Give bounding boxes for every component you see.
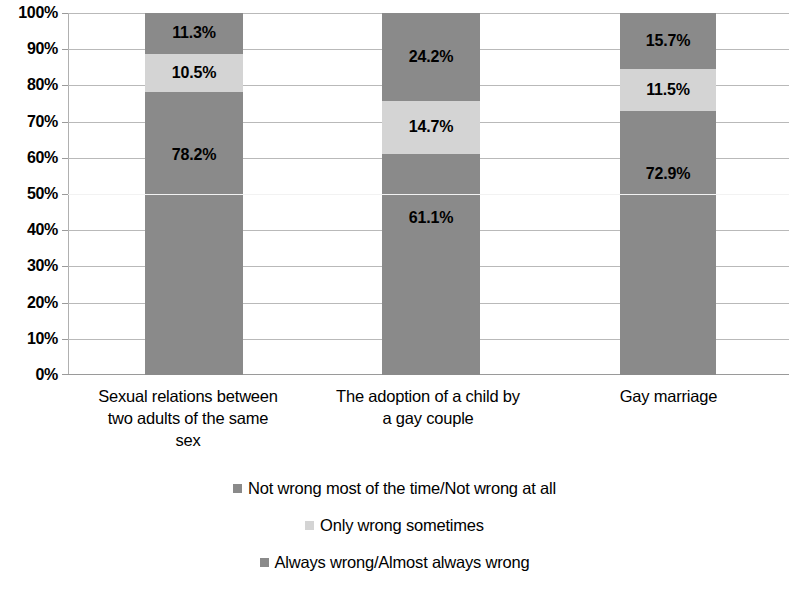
y-tick-70: 70% [0, 114, 58, 130]
category-label-gay-marriage: Gay marriage [548, 386, 789, 408]
category-line-3: sex [68, 430, 308, 452]
category-line-2: two adults of the same [68, 408, 308, 430]
category-line-1: Gay marriage [548, 386, 789, 408]
segment-label-only-wrong-sometimes: 11.5% [646, 82, 690, 98]
segment-only-wrong-sometimes[interactable]: 11.5% [620, 69, 716, 111]
y-tick-20: 20% [0, 295, 58, 311]
segment-label-always-wrong: 78.2% [172, 147, 216, 163]
segment-label-not-wrong: 24.2% [409, 49, 453, 65]
segment-not-wrong[interactable]: 15.7% [620, 13, 716, 70]
legend-label-always-wrong: Always wrong/Almost always wrong [275, 554, 530, 571]
legend-item-always-wrong[interactable]: Always wrong/Almost always wrong [0, 554, 789, 571]
segment-always-wrong[interactable]: 72.9% [620, 111, 716, 375]
segment-label-not-wrong: 11.3% [172, 25, 216, 41]
category-line-1: Sexual relations between [68, 386, 308, 408]
category-label-sexual-relations: Sexual relations between two adults of t… [68, 386, 308, 451]
segment-only-wrong-sometimes[interactable]: 10.5% [145, 54, 243, 92]
y-tick-10: 10% [0, 331, 58, 347]
segment-label-not-wrong: 15.7% [646, 33, 690, 49]
segment-label-only-wrong-sometimes: 14.7% [409, 119, 453, 135]
y-tick-40: 40% [0, 222, 58, 238]
segment-not-wrong[interactable]: 11.3% [145, 13, 243, 54]
y-tick-80: 80% [0, 77, 58, 93]
y-tick-30: 30% [0, 258, 58, 274]
legend-swatch-icon-not-wrong [233, 484, 242, 493]
y-tick-100: 100% [0, 5, 58, 21]
legend-swatch-icon-only-wrong-sometimes [305, 521, 314, 530]
y-tick-90: 90% [0, 41, 58, 57]
segment-not-wrong[interactable]: 24.2% [382, 13, 480, 101]
segment-always-wrong[interactable]: 78.2% [145, 92, 243, 375]
category-line-1: The adoption of a child by [308, 386, 548, 408]
segment-only-wrong-sometimes[interactable]: 14.7% [382, 101, 480, 154]
y-tick-60: 60% [0, 150, 58, 166]
bars-layer: 11.3% 10.5% 78.2% 24.2% [68, 13, 789, 375]
category-line-2: a gay couple [308, 408, 548, 430]
segment-label-always-wrong: 61.1% [409, 210, 453, 226]
plot-area: 100% 90% 80% 70% 60% 50% 40% 30% 20% 10%… [0, 0, 789, 380]
segment-always-wrong[interactable]: 61.1% [382, 154, 480, 375]
category-labels: Sexual relations between two adults of t… [68, 386, 789, 468]
gridline-50-overlay [68, 194, 789, 195]
y-tick-50: 50% [0, 186, 58, 202]
category-label-adoption: The adoption of a child by a gay couple [308, 386, 548, 430]
legend-swatch-icon-always-wrong [260, 558, 269, 567]
legend-label-not-wrong: Not wrong most of the time/Not wrong at … [248, 480, 556, 497]
stacked-bar-chart: 100% 90% 80% 70% 60% 50% 40% 30% 20% 10%… [0, 0, 789, 595]
y-axis-labels: 100% 90% 80% 70% 60% 50% 40% 30% 20% 10%… [0, 13, 58, 375]
legend-item-not-wrong[interactable]: Not wrong most of the time/Not wrong at … [0, 480, 789, 497]
segment-label-only-wrong-sometimes: 10.5% [172, 65, 216, 81]
legend-item-only-wrong-sometimes[interactable]: Only wrong sometimes [0, 517, 789, 534]
segment-label-always-wrong: 72.9% [646, 166, 690, 182]
y-tick-0: 0% [0, 367, 58, 383]
legend-label-only-wrong-sometimes: Only wrong sometimes [320, 517, 484, 534]
legend: Not wrong most of the time/Not wrong at … [0, 480, 789, 590]
